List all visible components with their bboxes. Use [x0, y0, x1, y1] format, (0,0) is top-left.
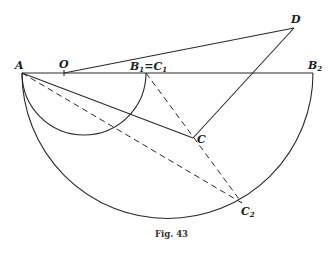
label-O: O: [59, 58, 69, 71]
figure-caption: Fig. 43: [155, 229, 188, 239]
small-semicircle: [22, 73, 146, 135]
line-A-C: [22, 73, 193, 138]
label-D: D: [290, 13, 301, 26]
label-A: A: [14, 59, 24, 72]
dashed-A-C2: [22, 73, 242, 203]
dashed-B1-C2: [146, 73, 242, 203]
label-B1-C1: B1=C1: [129, 60, 167, 74]
geometry-figure: A O B1=C1 B2 D C C2 Fig. 43: [0, 0, 335, 253]
large-semicircle: [22, 73, 313, 218]
label-C: C: [197, 133, 206, 146]
label-B2: B2: [307, 59, 322, 73]
label-C2: C2: [241, 205, 255, 219]
